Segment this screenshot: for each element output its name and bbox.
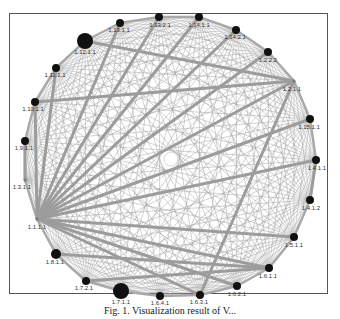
graph-node xyxy=(31,98,39,106)
center-hole xyxy=(164,152,178,166)
node-label: 1.14.2.1 xyxy=(224,34,246,40)
node-label: 1.7.2.1 xyxy=(75,285,94,291)
node-label: 1.2.1.1 xyxy=(283,86,302,92)
graph-node xyxy=(306,115,314,123)
node-label: 1.1.1.1 xyxy=(28,224,47,230)
graph-node xyxy=(113,283,129,299)
node-label: 1.13.1.1 xyxy=(108,27,130,33)
weighted-edge xyxy=(35,102,37,219)
graph-node xyxy=(264,48,272,56)
node-label: 1.15.1.1 xyxy=(298,124,320,130)
graph-node xyxy=(24,179,27,182)
node-label: 1.13.2.1 xyxy=(149,22,171,28)
node-label: 1.2.2.2 xyxy=(259,57,278,63)
perimeter-edge xyxy=(160,295,200,296)
graph-node xyxy=(232,26,240,34)
node-label: 1.4.1.2 xyxy=(302,205,321,211)
node-label: 1.9.1.1 xyxy=(15,145,34,151)
graph-node xyxy=(82,277,90,285)
graph-node xyxy=(77,33,93,49)
node-label: 1.4.1.1 xyxy=(308,165,327,171)
node-label: 1.11.1.1 xyxy=(44,72,66,78)
node-label: 1.3.1.1 xyxy=(13,184,32,190)
node-label: 1.5.1.1 xyxy=(285,242,304,248)
graph-node xyxy=(155,13,163,21)
graph-node xyxy=(265,264,273,272)
graph-node xyxy=(21,137,29,145)
network-graph: 1.1.1.11.3.1.11.9.1.11.10.1.11.11.1.11.1… xyxy=(0,0,340,319)
node-label: 1.6.1.1 xyxy=(259,273,278,279)
weighted-edge xyxy=(37,81,294,219)
graph-node xyxy=(306,196,314,204)
graph-node xyxy=(233,282,241,290)
graph-node xyxy=(52,64,60,72)
node-label: 1.6.2.1 xyxy=(228,291,247,297)
node-label: 1.12.1.1 xyxy=(74,49,96,55)
node-label: 1.10.1.1 xyxy=(22,106,44,112)
graph-node xyxy=(51,249,61,259)
graph-node xyxy=(36,218,39,221)
graph-node xyxy=(312,156,320,164)
node-label: 1.8.1.1 xyxy=(46,259,65,265)
figure-caption: Fig. 1. Visualization result of V... xyxy=(0,305,340,316)
graph-node xyxy=(196,291,204,299)
graph-node xyxy=(195,13,203,21)
node-label: 1.14.1.1 xyxy=(188,22,210,28)
graph-node xyxy=(290,233,298,241)
graph-node xyxy=(116,19,124,27)
graph-node xyxy=(156,292,164,300)
graph-node xyxy=(293,80,296,83)
